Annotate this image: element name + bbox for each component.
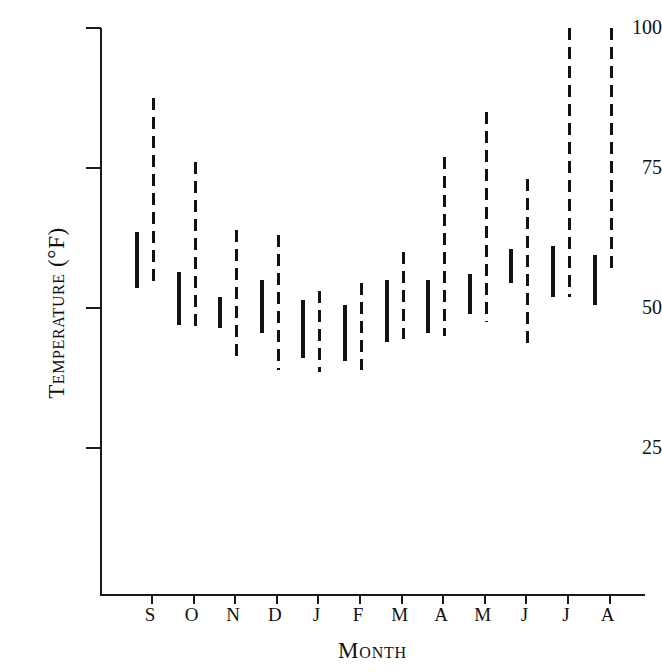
y-axis-title: Temperature (°F) — [44, 148, 70, 478]
x-tick-11 — [609, 594, 611, 604]
bar-solid-january — [301, 300, 305, 359]
x-tick-label-march: M — [380, 604, 420, 626]
bar-solid-september — [135, 232, 139, 288]
bar-dashed-october — [194, 162, 197, 333]
y-tick-75 — [86, 167, 101, 169]
bar-dashed-april — [443, 157, 446, 336]
x-tick-label-september: S — [130, 604, 170, 626]
bar-solid-august — [593, 255, 597, 305]
bar-dashed-november — [235, 230, 238, 359]
x-axis-title: Month — [100, 638, 645, 664]
x-tick-6 — [401, 594, 403, 604]
x-tick-label-november: N — [213, 604, 253, 626]
x-tick-7 — [442, 594, 444, 604]
bar-solid-april — [426, 280, 430, 333]
x-tick-label-february: F — [338, 604, 378, 626]
x-tick-label-january: J — [296, 604, 336, 626]
bar-solid-february — [343, 305, 347, 361]
x-tick-label-october: O — [172, 604, 212, 626]
bar-dashed-december — [277, 235, 280, 369]
x-tick-label-july: J — [546, 604, 586, 626]
y-axis-line — [100, 28, 102, 596]
bar-solid-march — [385, 280, 389, 342]
x-tick-10 — [567, 594, 569, 604]
bar-solid-october — [177, 272, 181, 325]
y-tick-label-25: 25 — [600, 437, 662, 457]
bar-dashed-march — [402, 252, 405, 339]
x-tick-label-april: A — [421, 604, 461, 626]
x-tick-4 — [317, 594, 319, 604]
y-tick-100 — [86, 27, 101, 29]
bar-solid-may — [468, 274, 472, 313]
y-tick-label-50: 50 — [600, 297, 662, 317]
x-tick-1 — [193, 594, 195, 604]
x-tick-8 — [484, 594, 486, 604]
y-tick-25 — [86, 447, 101, 449]
bar-dashed-august — [610, 28, 613, 272]
y-tick-50 — [86, 307, 101, 309]
x-tick-label-august: A — [588, 604, 628, 626]
bar-solid-july — [551, 246, 555, 296]
bar-dashed-july — [568, 28, 571, 297]
bar-dashed-september — [152, 98, 155, 283]
x-tick-2 — [234, 594, 236, 604]
bar-dashed-june — [526, 179, 529, 344]
chart-figure: 255075100 SONDJFMAMJJA Temperature (°F) … — [0, 0, 662, 672]
bar-solid-june — [509, 249, 513, 283]
x-tick-label-june: J — [504, 604, 544, 626]
x-axis-line — [100, 594, 645, 596]
x-tick-label-december: D — [255, 604, 295, 626]
bar-dashed-january — [318, 291, 321, 372]
x-tick-9 — [525, 594, 527, 604]
x-tick-0 — [151, 594, 153, 604]
x-tick-5 — [359, 594, 361, 604]
bar-dashed-february — [360, 283, 363, 370]
x-tick-3 — [276, 594, 278, 604]
bar-solid-november — [218, 297, 222, 328]
bar-solid-december — [260, 280, 264, 333]
bar-dashed-may — [485, 112, 488, 322]
x-tick-label-may: M — [463, 604, 503, 626]
